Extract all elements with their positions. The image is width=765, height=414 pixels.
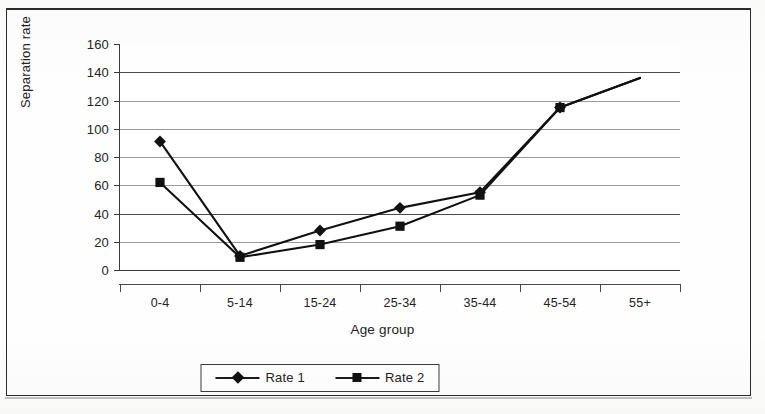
x-tick-label-45-54: 45-54: [544, 296, 577, 310]
y-tick-label-0: 0: [102, 263, 109, 278]
x-tick-label-5-14: 5-14: [227, 296, 253, 310]
y-tick-label-100: 100: [87, 121, 109, 136]
x-tick-end: [680, 285, 681, 292]
x-tick-45-54: [520, 285, 521, 292]
x-tick-label-25-34: 25-34: [384, 296, 417, 310]
x-axis-title: Age group: [0, 322, 765, 337]
y-tick-label-60: 60: [94, 178, 109, 193]
chart-body: Separation rate 020406080100120140160 0-…: [0, 0, 765, 414]
y-tick-label-120: 120: [87, 93, 109, 108]
data-point-rate-1-15-24: [314, 225, 326, 237]
x-tick-35-44: [440, 285, 441, 292]
y-tick-label-160: 160: [87, 37, 109, 52]
legend-item-rate-2: Rate 2: [335, 370, 425, 385]
data-point-rate-1-25-34: [394, 202, 406, 214]
legend-marker-diamond-icon: [215, 372, 259, 384]
data-point-rate-2-15-24: [315, 240, 324, 249]
data-point-rate-2-35-44: [475, 191, 484, 200]
x-tick-label-35-44: 35-44: [464, 296, 497, 310]
data-point-rate-2-25-34: [395, 222, 404, 231]
data-point-rate-2-0-4: [155, 178, 164, 187]
y-tick-label-80: 80: [94, 150, 109, 165]
y-tick-label-20: 20: [94, 234, 109, 249]
chart-figure: Separation rate 020406080100120140160 0-…: [0, 0, 765, 414]
x-axis-line: [119, 270, 680, 271]
legend-label-rate-1: Rate 1: [265, 370, 305, 385]
data-point-rate-2-5-14: [235, 253, 244, 262]
y-tick-label-40: 40: [94, 206, 109, 221]
x-tick-label-0-4: 0-4: [151, 296, 170, 310]
x-tick-15-24: [280, 285, 281, 292]
chart-legend: Rate 1 Rate 2: [200, 364, 439, 392]
x-tick-0-4: [120, 285, 121, 292]
plot-area: 020406080100120140160: [120, 44, 680, 270]
legend-label-rate-2: Rate 2: [385, 370, 425, 385]
x-tick-25-34: [360, 285, 361, 292]
y-axis-title: Separation rate: [18, 16, 33, 108]
legend-item-rate-1: Rate 1: [215, 370, 305, 385]
series-layer: [120, 44, 680, 270]
x-tick-label-55+: 55+: [629, 296, 651, 310]
y-tick-0: [114, 270, 120, 271]
x-tick-55+: [600, 285, 601, 292]
data-point-rate-2-45-54: [555, 103, 564, 112]
x-tick-5-14: [200, 285, 201, 292]
x-axis-baseline: [119, 284, 681, 285]
y-tick-label-140: 140: [87, 65, 109, 80]
legend-marker-square-icon: [335, 372, 379, 384]
x-tick-label-15-24: 15-24: [304, 296, 337, 310]
